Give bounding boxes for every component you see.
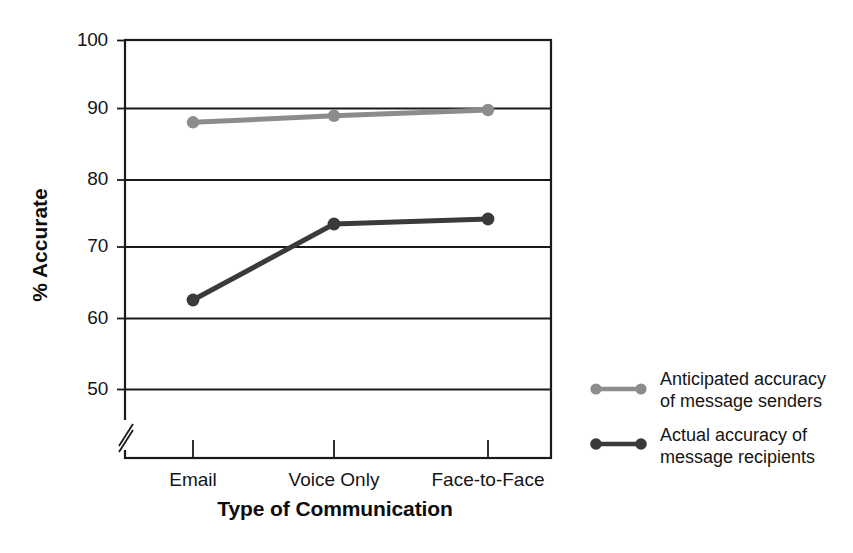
legend-label-anticipated-accuracy: Anticipated accuracy of message senders [660,368,826,412]
data-point-anticipated-face-to-face [482,104,494,116]
y-tick-label-50: 50 [48,378,108,400]
y-axis-title: % Accurate [28,175,52,315]
legend-swatch-dot-actual-right [635,438,647,450]
x-axis-title: Type of Communication [120,497,550,521]
data-point-anticipated-voice-only [328,110,340,122]
y-tick-marks [117,41,125,390]
legend-swatch-dot-anticipated-left [590,383,601,394]
y-tick-label-90: 90 [48,97,108,119]
x-tick-label-face-to-face: Face-to-Face [418,469,558,491]
legend-swatches [590,383,647,449]
legend-swatch-dot-anticipated-right [635,383,646,394]
plot-frame [125,40,551,458]
legend-swatch-dot-actual-left [590,438,602,450]
x-tick-label-voice-only: Voice Only [264,469,404,491]
legend-label-actual-accuracy: Actual accuracy of message recipients [660,424,815,468]
chart-figure: 100 90 80 70 60 50 Email Voice Only Face… [0,0,853,553]
y-tick-label-60: 60 [48,307,108,329]
data-point-actual-face-to-face [482,213,495,226]
axis-break-icon [119,420,133,452]
data-point-actual-email [187,294,200,307]
y-tick-label-100: 100 [48,29,108,51]
y-tick-label-80: 80 [48,168,108,190]
x-tick-label-email: Email [123,469,263,491]
data-point-anticipated-email [187,116,199,128]
y-tick-label-70: 70 [48,235,108,257]
data-point-actual-voice-only [328,218,341,231]
